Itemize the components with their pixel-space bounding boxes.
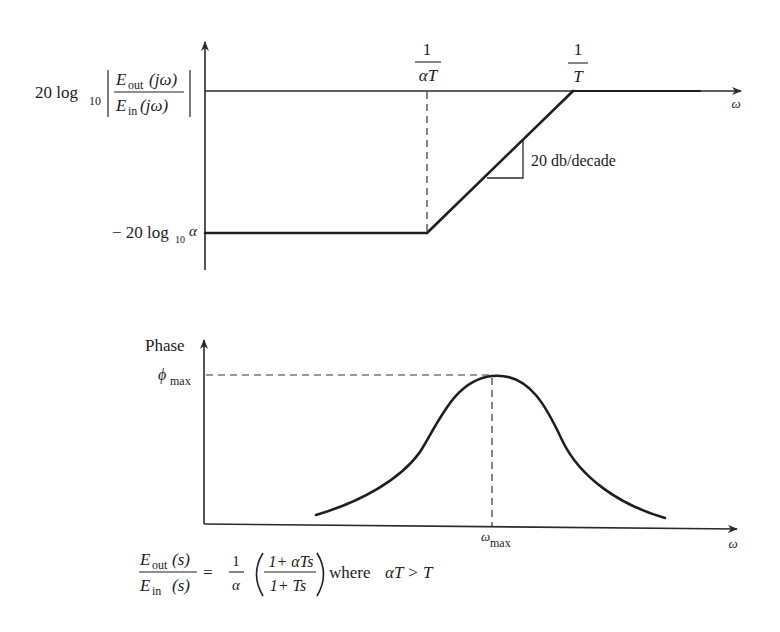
corner-1-numerator: 1	[423, 40, 432, 59]
phi-subscript: max	[170, 374, 191, 388]
y-label-subscript: 10	[89, 94, 101, 108]
tf-equals: =	[203, 563, 213, 582]
left-paren	[257, 553, 264, 596]
phase-curve	[316, 376, 665, 518]
y-label-num-arg: (jω)	[149, 70, 177, 89]
tf-paren-den: 1+ Ts	[270, 577, 306, 594]
phi-symbol: ϕ	[158, 366, 166, 384]
lead-compensator-diagram: 20 db/decade 1 αT 1 T ω 20 log 10 E out …	[0, 0, 780, 632]
corner-2-denominator: T	[573, 67, 584, 86]
tf-num-sub: out	[152, 558, 168, 572]
corner-2-numerator: 1	[574, 40, 583, 59]
low-level-subscript: 10	[175, 234, 185, 245]
phase-y-label: Phase	[145, 336, 185, 355]
y-label-den-arg: (jω)	[140, 96, 168, 115]
corner-2-label: 1 T	[568, 40, 588, 86]
y-label-prefix: 20 log	[35, 83, 78, 102]
tf-where: where	[329, 563, 371, 582]
magnitude-y-label: 20 log 10 E out (jω) E in (jω)	[35, 70, 190, 118]
right-paren	[317, 553, 324, 596]
tf-gain-den: α	[232, 577, 241, 593]
phase-plot: Phase ϕ max ω max ω	[145, 336, 738, 551]
tf-num-arg: (s)	[172, 550, 190, 569]
phi-max-label: ϕ max	[158, 366, 191, 388]
omega-max-symbol: ω	[481, 529, 490, 544]
corner-1-denominator: αT	[419, 66, 439, 85]
corner-1-label: 1 αT	[415, 40, 441, 85]
magnitude-x-label: ω	[731, 96, 740, 111]
tf-den-sub: in	[152, 584, 161, 598]
tf-den-E: E	[139, 576, 151, 595]
tf-paren-num: 1+ αTs	[269, 553, 314, 570]
y-label-num-E: E	[115, 70, 127, 89]
magnitude-asymptote	[205, 91, 573, 233]
magnitude-plot: 20 db/decade 1 αT 1 T ω 20 log 10 E out …	[35, 40, 741, 270]
omega-max-label: ω max	[481, 529, 511, 550]
tf-den-arg: (s)	[172, 576, 190, 595]
slope-label: 20 db/decade	[531, 152, 616, 169]
transfer-function: E out (s) E in (s) = 1 α 1+ αTs 1+ Ts wh…	[139, 550, 434, 598]
phase-x-label: ω	[728, 536, 737, 551]
y-label-den-E: E	[115, 96, 127, 115]
phase-x-axis	[204, 524, 737, 529]
low-level-symbol: α	[189, 223, 198, 239]
omega-max-subscript: max	[490, 536, 511, 550]
tf-num-E: E	[139, 550, 151, 569]
low-level-label: − 20 log 10 α	[112, 223, 198, 245]
y-label-num-sub: out	[128, 78, 144, 92]
tf-gain-num: 1	[232, 553, 240, 569]
low-level-prefix: − 20 log	[112, 223, 169, 242]
y-label-den-sub: in	[128, 104, 137, 118]
tf-condition: αT > T	[385, 563, 434, 582]
